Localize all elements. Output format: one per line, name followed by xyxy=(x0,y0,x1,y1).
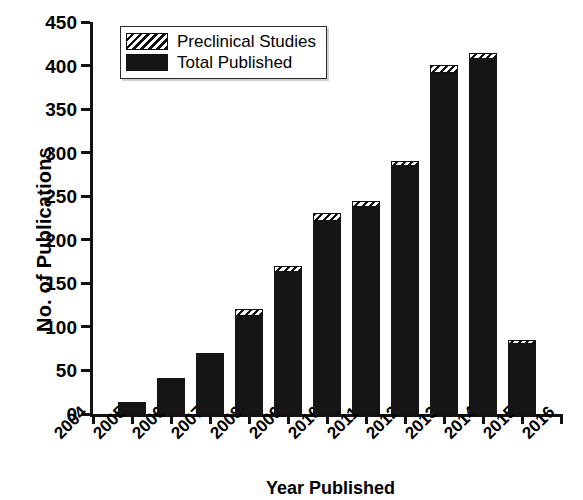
x-axis-tick xyxy=(365,414,368,424)
bar-segment-preclinical-studies xyxy=(508,340,535,344)
bar-segment-total-published xyxy=(313,221,340,414)
bar-segment-total-published xyxy=(157,378,184,414)
y-axis-tick-label: 200 xyxy=(45,230,77,249)
y-axis-tick xyxy=(81,151,90,154)
y-axis-tick xyxy=(81,21,90,24)
y-axis-tick-label: 400 xyxy=(45,56,77,75)
bar-segment-preclinical-studies xyxy=(274,266,301,272)
bar-group xyxy=(274,22,301,414)
bar-segment-total-published xyxy=(235,316,262,414)
y-axis-tick-label: 50 xyxy=(56,361,77,380)
legend-item-preclinical-studies: Preclinical Studies xyxy=(126,31,316,52)
x-axis-title: Year Published xyxy=(0,478,583,499)
bar-segment-preclinical-studies xyxy=(235,309,262,316)
x-axis-tick xyxy=(404,414,407,424)
bar-segment-preclinical-studies xyxy=(469,53,496,59)
y-axis-tick xyxy=(81,195,90,198)
y-axis-tick xyxy=(81,282,90,285)
y-axis-tick xyxy=(81,108,90,111)
bar-segment-preclinical-studies xyxy=(352,201,379,207)
bar-group xyxy=(430,22,457,414)
bar-group xyxy=(508,22,535,414)
y-axis-tick-label: 450 xyxy=(45,13,77,32)
y-axis-tick-label: 300 xyxy=(45,143,77,162)
bar-segment-preclinical-studies xyxy=(391,161,418,165)
y-axis-tick xyxy=(81,64,90,67)
bar-segment-total-published xyxy=(430,73,457,414)
bar-group xyxy=(469,22,496,414)
bar-group xyxy=(352,22,379,414)
y-axis-tick xyxy=(81,238,90,241)
legend-swatch-solid-icon xyxy=(126,54,168,71)
y-axis-tick-label: 350 xyxy=(45,100,77,119)
chart-legend: Preclinical Studies Total Published xyxy=(120,26,327,79)
x-axis-tick xyxy=(326,414,329,424)
x-axis-tick xyxy=(443,414,446,424)
y-axis-line xyxy=(90,22,93,417)
legend-label-preclinical-studies: Preclinical Studies xyxy=(177,33,316,50)
x-axis-tick xyxy=(560,414,563,424)
bar-segment-total-published xyxy=(118,402,145,414)
bar-segment-total-published xyxy=(508,344,535,414)
x-axis-tick xyxy=(521,414,524,424)
x-axis-tick xyxy=(92,414,95,424)
bar-segment-total-published xyxy=(391,166,418,414)
plot-area: 450400350300250200150100500 200420052006… xyxy=(93,22,561,414)
bar-group xyxy=(157,22,184,414)
x-axis-tick xyxy=(482,414,485,424)
bar-segment-total-published xyxy=(352,207,379,414)
x-axis-tick-label: 2004 xyxy=(51,403,90,442)
y-axis-tick-label: 100 xyxy=(45,317,77,336)
bar-group xyxy=(118,22,145,414)
bar-group xyxy=(196,22,223,414)
y-axis-tick-label: 150 xyxy=(45,274,77,293)
legend-item-total-published: Total Published xyxy=(126,52,316,73)
x-axis-tick xyxy=(209,414,212,424)
bar-group xyxy=(391,22,418,414)
x-axis-tick xyxy=(131,414,134,424)
bar-segment-total-published xyxy=(196,353,223,414)
y-axis-tick xyxy=(81,325,90,328)
bar-group xyxy=(313,22,340,414)
bar-chart: No. of Publications 45040035030025020015… xyxy=(0,0,583,500)
x-axis-title-text: Year Published xyxy=(188,478,395,499)
bar-segment-total-published xyxy=(469,59,496,414)
legend-swatch-hatched-icon xyxy=(126,33,168,50)
x-axis-tick xyxy=(287,414,290,424)
y-axis-tick-label: 250 xyxy=(45,187,77,206)
y-axis-tick xyxy=(81,369,90,372)
legend-label-total-published: Total Published xyxy=(177,54,292,71)
bar-segment-preclinical-studies xyxy=(430,65,457,74)
bar-segment-preclinical-studies xyxy=(313,213,340,221)
x-axis-tick xyxy=(170,414,173,424)
bar-group xyxy=(235,22,262,414)
bar-segment-total-published xyxy=(274,272,301,414)
x-axis-tick xyxy=(248,414,251,424)
